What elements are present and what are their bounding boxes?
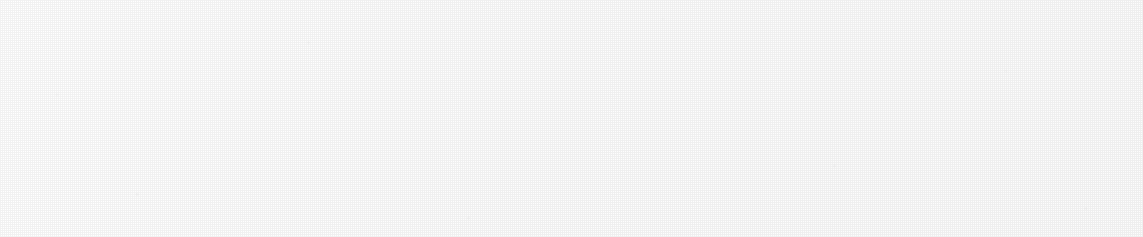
rotated-word-crocodile: Crocodile <box>62 16 1087 217</box>
word-block: Crocodile <box>0 0 1143 237</box>
scanned-page: Crocodile <box>0 0 1143 237</box>
